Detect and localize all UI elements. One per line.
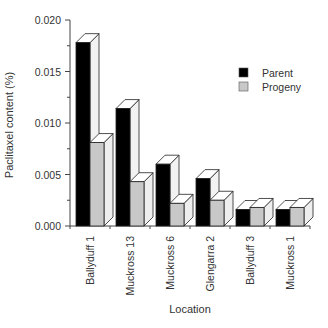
bar-progeny	[130, 173, 153, 226]
legend: Parent Progeny	[239, 67, 302, 93]
x-category-label: Glengarra 2	[204, 236, 216, 292]
x-category-label: Muckross 13	[124, 236, 136, 296]
x-axis	[70, 226, 310, 229]
x-axis-title: Location	[169, 303, 211, 315]
bar-progeny	[210, 191, 233, 226]
y-tick-label: 0.015	[35, 66, 61, 78]
legend-label-progeny: Progeny	[262, 81, 302, 93]
legend-label-parent: Parent	[262, 67, 293, 79]
x-category-label: Ballyduff 3	[244, 236, 256, 285]
y-axis: 0.0000.0050.0100.0150.020	[35, 14, 70, 232]
y-axis-title: Paclitaxel content (%)	[3, 72, 15, 178]
bar-progeny	[90, 134, 113, 226]
legend-swatch-parent	[239, 68, 248, 77]
y-tick-label: 0.005	[35, 169, 61, 181]
x-category-label: Ballyduff 1	[84, 236, 96, 285]
category-labels: Ballyduff 1Muckross 13Muckross 6Glengarr…	[84, 236, 296, 296]
y-tick-label: 0.000	[35, 220, 61, 232]
x-category-label: Muckross 6	[164, 236, 176, 290]
bars	[76, 34, 313, 226]
bar-chart: 0.0000.0050.0100.0150.020 Ballyduff 1Muc…	[0, 0, 328, 328]
legend-swatch-progeny	[239, 82, 248, 91]
x-category-label: Muckross 1	[284, 236, 296, 290]
y-tick-label: 0.010	[35, 117, 61, 129]
y-tick-label: 0.020	[35, 14, 61, 26]
